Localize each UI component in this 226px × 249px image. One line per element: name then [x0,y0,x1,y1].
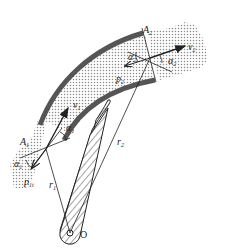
blade-channel-diagram: A2 v2 α2 α2 p2 v1 α1 A1 α1 p1t r1 r2 O [0,0,226,249]
outlet-flow-region [148,22,208,80]
inlet-flow-region [10,116,48,188]
label-a1: A1 [19,136,29,148]
label-r2: r2 [117,136,124,148]
label-o: O [80,229,87,240]
radius-r1 [46,149,70,233]
label-a2: A2 [142,24,152,36]
